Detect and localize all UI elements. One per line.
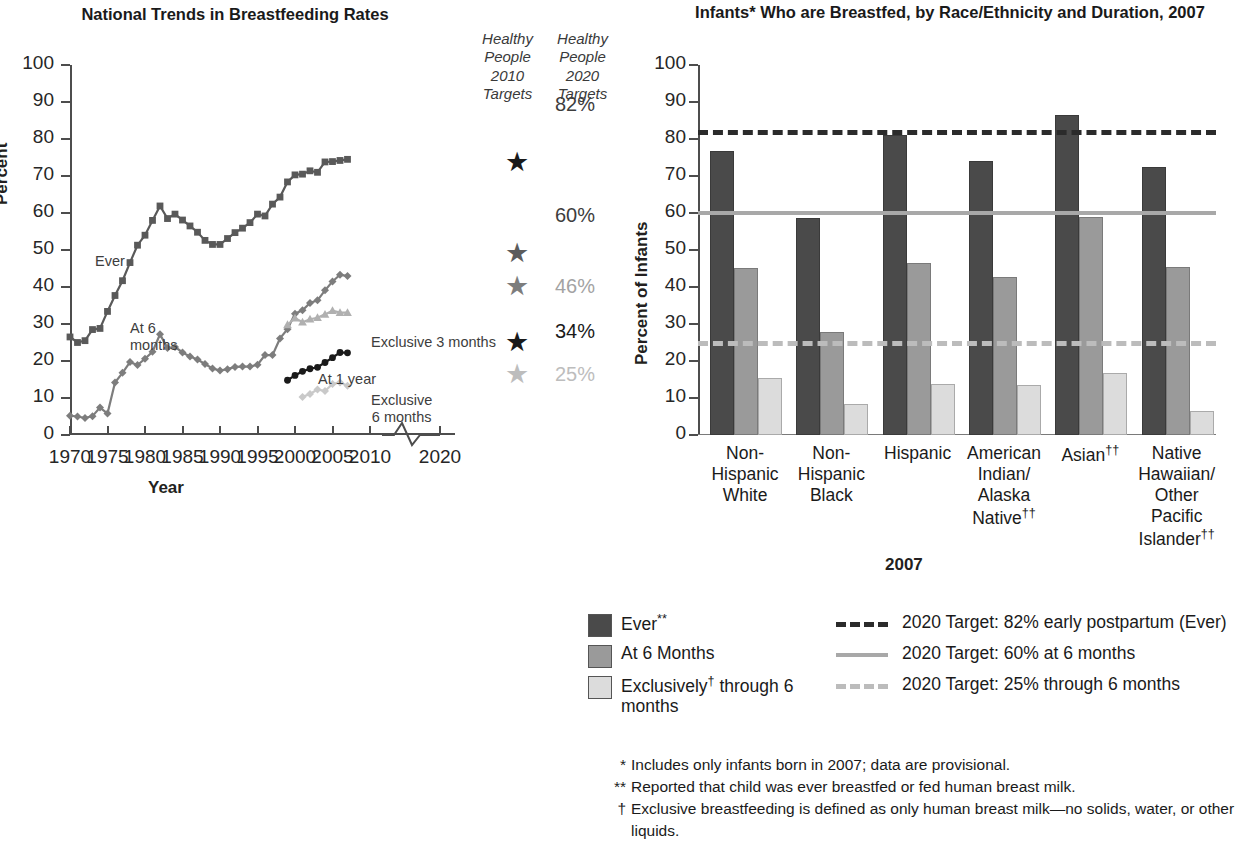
left-y-tick-label: 20	[8, 348, 54, 370]
data-point	[89, 326, 96, 333]
bar	[883, 135, 907, 435]
data-point	[202, 237, 209, 244]
left-x-tick	[369, 426, 371, 435]
chart-legend: Ever**2020 Target: 82% early postpartum …	[588, 612, 1240, 723]
data-point	[82, 337, 89, 344]
left-y-tick	[61, 101, 70, 103]
hp2020-target-46: 46%	[535, 275, 615, 298]
data-point	[344, 156, 351, 163]
legend-swatch	[588, 645, 612, 668]
left-y-tick	[61, 397, 70, 399]
right-y-tick-label: 90	[640, 89, 686, 111]
left-plot-area: 0102030405060708090100197019751980198519…	[70, 65, 455, 435]
hp2020-line3: 2020	[545, 67, 620, 85]
left-y-tick-label: 60	[8, 200, 54, 222]
hp2010-line2: People	[470, 48, 545, 66]
right-y-tick	[689, 138, 698, 140]
hp2010-star-at6months: ★	[500, 240, 534, 267]
right-y-tick-label: 80	[640, 126, 686, 148]
left-x-tick	[144, 426, 146, 435]
right-y-tick-label: 10	[640, 385, 686, 407]
left-y-tick	[61, 360, 70, 362]
data-point	[337, 157, 344, 164]
left-x-tick	[294, 426, 296, 435]
data-point	[142, 232, 149, 239]
data-point	[239, 363, 247, 371]
footnote: **Reported that child was ever breastfed…	[600, 776, 1240, 798]
right-y-tick	[689, 175, 698, 177]
right-y-tick-label: 50	[640, 237, 686, 259]
right-chart-title: Infants* Who are Breastfed, by Race/Ethn…	[680, 2, 1220, 23]
data-point	[284, 377, 291, 384]
data-point	[224, 365, 232, 373]
left-y-tick	[61, 323, 70, 325]
series-label-exclusive6months: Exclusive6 months	[371, 392, 432, 426]
hp2010-line4: Targets	[470, 85, 545, 103]
bar	[1142, 167, 1166, 435]
footnote-text: Reported that child was ever breastfed o…	[631, 776, 1076, 798]
left-x-tick-label: 2010	[338, 446, 402, 468]
right-y-tick-label: 20	[640, 348, 686, 370]
data-point	[329, 158, 336, 165]
data-point	[344, 272, 352, 280]
bar	[734, 268, 758, 435]
data-point	[74, 413, 82, 421]
hp2010-line1: Healthy	[470, 30, 545, 48]
data-point	[164, 215, 171, 222]
legend-swatch-label: Exclusively† through 6 months	[621, 674, 836, 717]
bar	[758, 378, 782, 435]
bar-group-label: Non-HispanicBlack	[781, 443, 881, 506]
reference-line	[698, 341, 1216, 346]
data-point	[299, 393, 307, 401]
data-point	[81, 414, 89, 422]
right-y-tick	[689, 286, 698, 288]
bar	[969, 161, 993, 435]
hp2010-star-ever: ★	[500, 149, 534, 176]
footnote-marker: †	[600, 798, 626, 842]
left-series-svg	[70, 65, 455, 435]
data-point	[149, 217, 156, 224]
right-y-tick	[689, 64, 698, 66]
left-y-tick	[61, 175, 70, 177]
line-chart-panel: National Trends in Breastfeeding Rates H…	[0, 0, 620, 540]
footnote: †Exclusive breastfeeding is defined as o…	[600, 798, 1240, 842]
bar	[1166, 267, 1190, 435]
legend-row: Ever**2020 Target: 82% early postpartum …	[588, 612, 1240, 637]
bar-group-label: NativeHawaiian/OtherPacificIslander††	[1127, 443, 1227, 550]
data-point	[217, 241, 224, 248]
data-point	[67, 334, 74, 341]
series-line	[70, 159, 348, 342]
left-x-tick	[332, 426, 334, 435]
legend-line-label: 2020 Target: 82% early postpartum (Ever)	[902, 612, 1227, 633]
data-point	[127, 259, 134, 266]
data-point	[119, 277, 126, 284]
right-y-tick	[689, 434, 698, 436]
data-point	[337, 349, 344, 356]
right-x-axis-title: 2007	[885, 555, 923, 575]
data-point	[239, 225, 246, 232]
bar	[931, 384, 955, 435]
bar	[1079, 217, 1103, 435]
series-ever	[67, 156, 351, 346]
right-y-tick	[689, 212, 698, 214]
data-point	[179, 217, 186, 224]
right-y-tick	[689, 101, 698, 103]
data-point	[97, 325, 104, 332]
left-y-tick-label: 50	[8, 237, 54, 259]
left-y-tick-label: 30	[8, 311, 54, 333]
left-chart-title: National Trends in Breastfeeding Rates	[0, 4, 470, 25]
legend-row: At 6 Months2020 Target: 60% at 6 months	[588, 643, 1240, 668]
data-point	[187, 223, 194, 230]
data-point	[262, 213, 269, 220]
left-y-tick	[61, 249, 70, 251]
hp2010-star-exclusive6: ★	[500, 361, 534, 388]
data-point	[299, 368, 306, 375]
bar	[1055, 115, 1079, 435]
bar	[1103, 373, 1127, 435]
series-label-exclusive3months: Exclusive 3 months	[371, 334, 496, 351]
bar	[844, 404, 868, 435]
data-point	[322, 359, 329, 366]
left-y-tick	[61, 64, 70, 66]
legend-line-sample	[836, 674, 894, 698]
legend-line-sample	[836, 643, 894, 667]
